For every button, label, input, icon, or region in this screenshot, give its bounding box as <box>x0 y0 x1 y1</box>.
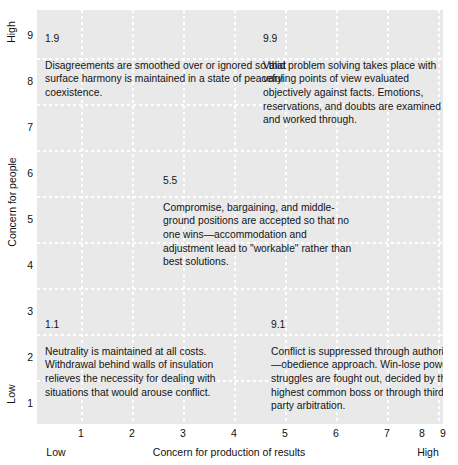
annotation-text: Compromise, bargaining, and middle-groun… <box>163 201 353 269</box>
horizontal-gridline <box>37 150 443 152</box>
annotation-5-5: 5.5 Compromise, bargaining, and middle-g… <box>163 160 353 282</box>
y-axis-low-label: Low <box>5 374 17 414</box>
x-axis-high-label: High <box>408 446 448 458</box>
x-axis-low-label: Low <box>36 446 76 458</box>
x-tick-7: 7 <box>375 428 399 439</box>
annotation-text: Disagreements are smoothed over or ignor… <box>45 59 290 100</box>
plot-area: 1.9 Disagreements are smoothed over or i… <box>37 10 443 424</box>
annotation-9-1: 9.1 Conflict is suppressed through autho… <box>271 304 443 424</box>
y-tick-3: 3 <box>9 306 33 317</box>
annotation-code: 5.5 <box>163 174 353 188</box>
x-tick-3: 3 <box>171 428 195 439</box>
annotation-9-9: 9.9 Valid problem solving takes place wi… <box>263 18 443 140</box>
annotation-1-9: 1.9 Disagreements are smoothed over or i… <box>45 18 290 113</box>
y-axis-title: Concern for people <box>6 142 18 262</box>
annotation-code: 9.1 <box>271 318 443 332</box>
x-tick-6: 6 <box>324 428 348 439</box>
x-tick-4: 4 <box>222 428 246 439</box>
y-tick-8: 8 <box>9 76 33 87</box>
annotation-text: Conflict is suppressed through authority… <box>271 345 443 413</box>
annotation-code: 1.9 <box>45 32 290 46</box>
y-axis-high-label: High <box>5 12 17 52</box>
x-tick-1: 1 <box>69 428 93 439</box>
annotation-1-1: 1.1 Neutrality is maintained at all cost… <box>45 304 235 413</box>
conflict-grid-figure: 1.9 Disagreements are smoothed over or i… <box>0 0 458 465</box>
annotation-text: Valid problem solving takes place with v… <box>263 59 443 127</box>
x-tick-5: 5 <box>273 428 297 439</box>
y-tick-2: 2 <box>9 352 33 363</box>
annotation-text: Neutrality is maintained at all costs. W… <box>45 345 235 399</box>
y-tick-7: 7 <box>9 122 33 133</box>
annotation-code: 9.9 <box>263 32 443 46</box>
x-tick-9: 9 <box>431 428 455 439</box>
annotation-code: 1.1 <box>45 318 235 332</box>
x-tick-2: 2 <box>120 428 144 439</box>
horizontal-gridline <box>37 288 443 290</box>
